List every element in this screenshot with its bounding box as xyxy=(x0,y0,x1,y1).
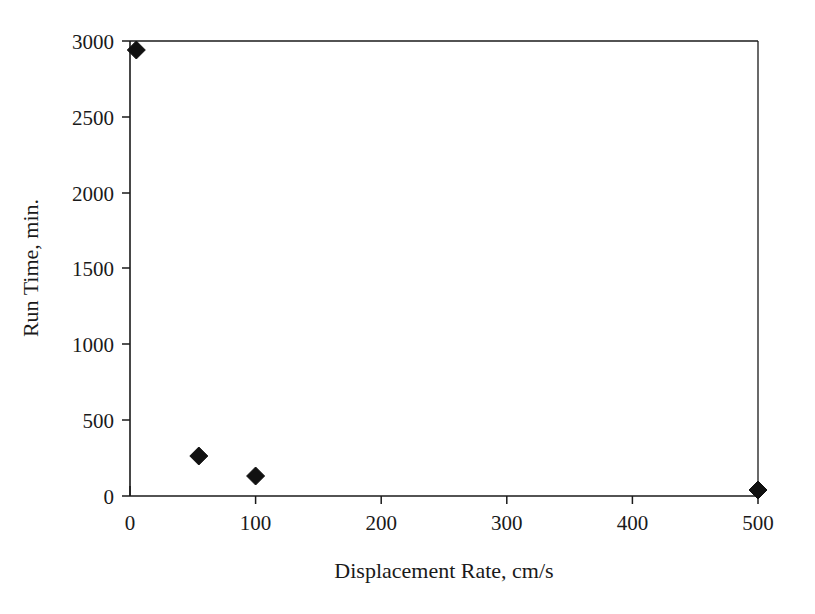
x-tick-label-400: 400 xyxy=(617,511,649,535)
x-tick-label-500: 500 xyxy=(742,511,774,535)
x-tick-label-200: 200 xyxy=(365,511,397,535)
y-tick-label-2000: 2000 xyxy=(72,182,114,206)
x-axis-title: Displacement Rate, cm/s xyxy=(334,558,553,583)
y-tick-label-1000: 1000 xyxy=(72,333,114,357)
y-tick-label-3000: 3000 xyxy=(72,30,114,54)
y-tick-label-1500: 1500 xyxy=(72,257,114,281)
scatter-plot: 3000 2500 2000 1500 1000 500 0 0 100 200… xyxy=(0,0,815,614)
y-tick-label-500: 500 xyxy=(83,409,115,433)
x-tick-label-300: 300 xyxy=(491,511,523,535)
y-axis-title: Run Time, min. xyxy=(18,199,43,337)
x-tick-label-100: 100 xyxy=(240,511,272,535)
figure-background xyxy=(0,0,815,614)
chart-figure: 3000 2500 2000 1500 1000 500 0 0 100 200… xyxy=(0,0,815,614)
y-tick-label-2500: 2500 xyxy=(72,106,114,130)
y-tick-label-0: 0 xyxy=(104,485,115,509)
x-tick-label-0: 0 xyxy=(125,511,136,535)
